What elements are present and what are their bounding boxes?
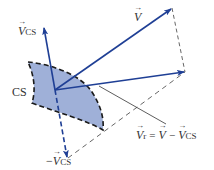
neg-v-cs-prefix: − xyxy=(46,154,53,168)
construction-line-v-to-vr xyxy=(172,8,185,72)
eq-vr-subscript: r xyxy=(143,131,146,141)
v-arrow xyxy=(55,9,171,90)
eq-minus: − xyxy=(169,129,175,141)
eq-v-symbol: V xyxy=(159,129,166,141)
label-cs: CS xyxy=(12,86,27,98)
neg-v-cs-subscript: CS xyxy=(60,157,71,167)
eq-vcs-subscript: CS xyxy=(185,131,196,141)
eq-vcs-symbol: V xyxy=(178,129,185,141)
v-cs-symbol: V xyxy=(18,25,25,37)
v-symbol: V xyxy=(134,11,141,23)
eq-equals: = xyxy=(149,129,155,141)
neg-v-cs-symbol: V xyxy=(53,155,60,167)
label-v: V xyxy=(134,11,141,23)
equation-label: Vr=V−VCS xyxy=(136,129,196,141)
label-neg-v-cs: −VCS xyxy=(46,155,71,167)
eq-vr-symbol: V xyxy=(136,129,143,141)
control-surface-patch xyxy=(28,62,103,130)
v-cs-subscript: CS xyxy=(25,27,36,37)
vr-leader-line xyxy=(99,86,166,124)
label-v-cs: VCS xyxy=(18,25,36,37)
cs-text: CS xyxy=(12,85,27,99)
